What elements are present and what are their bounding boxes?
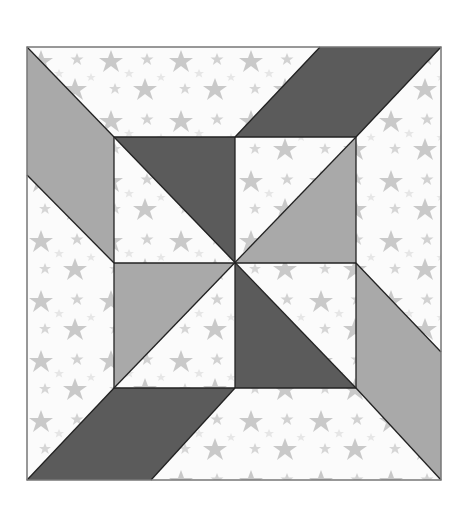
quilt-block-figure	[0, 0, 473, 505]
